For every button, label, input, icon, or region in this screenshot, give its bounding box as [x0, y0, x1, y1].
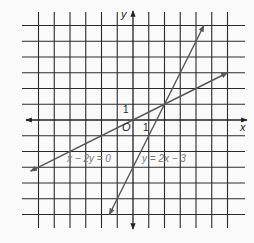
x-axis-label: x [239, 121, 246, 133]
graph-svg: y x O 1 1 x − 2y = 0 y = 2x − 3 [0, 0, 254, 243]
line-label-x-2y: x − 2y = 0 [66, 153, 111, 164]
origin-label: O [122, 121, 131, 133]
line-label-y-2x: y = 2x − 3 [141, 153, 186, 164]
y-tick-one: 1 [123, 104, 129, 115]
x-tick-one: 1 [143, 122, 149, 133]
axes [26, 11, 247, 229]
y-axis-label: y [120, 8, 128, 20]
coordinate-plane: y x O 1 1 x − 2y = 0 y = 2x − 3 [0, 0, 254, 243]
